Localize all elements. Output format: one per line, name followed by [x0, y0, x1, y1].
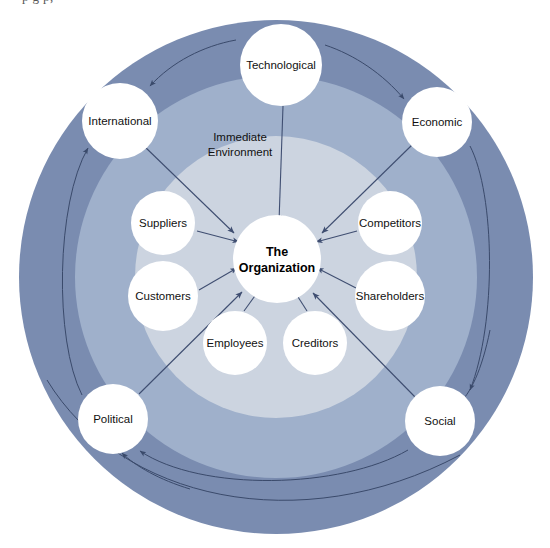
node-suppliers-label: Suppliers [139, 217, 187, 229]
node-employees-label: Employees [207, 337, 264, 349]
node-customers-label: Customers [135, 290, 191, 302]
immediate-environment-label-line1: Immediate [213, 131, 267, 143]
node-employees[interactable]: Employees [203, 311, 267, 375]
node-competitors[interactable]: Competitors [358, 191, 422, 255]
node-creditors[interactable]: Creditors [283, 311, 347, 375]
immediate-environment-label-line2: Environment [208, 146, 273, 158]
node-international-label: International [88, 115, 151, 127]
node-competitors-label: Competitors [359, 217, 421, 229]
node-shareholders[interactable]: Shareholders [355, 261, 425, 331]
node-international[interactable]: International [82, 83, 158, 159]
node-shareholders-label: Shareholders [356, 290, 425, 302]
node-organization-label-line2: Organization [239, 261, 315, 275]
node-technological-label: Technological [246, 59, 316, 71]
node-economic-label: Economic [412, 116, 463, 128]
node-social[interactable]: Social [405, 386, 475, 456]
node-suppliers[interactable]: Suppliers [131, 191, 195, 255]
node-technological[interactable]: Technological [240, 24, 322, 106]
node-political[interactable]: Political [78, 384, 148, 454]
node-social-label: Social [424, 415, 455, 427]
node-customers[interactable]: Customers [128, 261, 198, 331]
node-organization-label-line1: The [266, 245, 288, 259]
node-organization-circle [233, 215, 321, 303]
diagram-canvas: Suppliers Customers Employees Creditors … [0, 0, 550, 548]
node-economic[interactable]: Economic [402, 87, 472, 157]
node-creditors-label: Creditors [292, 337, 339, 349]
node-organization[interactable]: The Organization [233, 215, 321, 303]
diagram-root: p g p, [0, 0, 550, 548]
node-political-label: Political [93, 413, 133, 425]
